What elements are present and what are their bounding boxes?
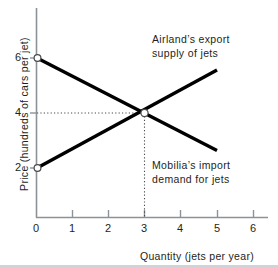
- demand-annotation-line-1: Mobilia’s import: [152, 159, 230, 173]
- demand-origin-marker: [34, 55, 41, 62]
- supply-curve-annotation: Airland’s export supply of jets: [152, 33, 230, 60]
- chart-figure: 0 1 2 3 4 5 6 6 4 2 Quantity (jets per y…: [0, 0, 278, 268]
- demand-annotation-line-2: demand for jets: [152, 173, 230, 187]
- supply-annotation-line-1: Airland’s export: [152, 33, 230, 47]
- equilibrium-point-marker: [141, 109, 148, 116]
- demand-curve: [37, 58, 217, 151]
- x-tick-label-5: 5: [208, 222, 226, 234]
- supply-origin-marker: [34, 165, 41, 172]
- supply-annotation-line-2: supply of jets: [152, 47, 230, 61]
- x-tick-label-2: 2: [99, 222, 117, 234]
- supply-curve: [37, 70, 217, 168]
- x-tick-label-1: 1: [63, 222, 81, 234]
- y-axis-ticks: [30, 58, 37, 168]
- x-tick-label-3: 3: [135, 222, 153, 234]
- x-tick-label-4: 4: [171, 222, 189, 234]
- x-axis-ticks: [73, 210, 254, 218]
- x-tick-label-6: 6: [244, 222, 262, 234]
- demand-curve-annotation: Mobilia’s import demand for jets: [152, 159, 230, 186]
- x-tick-label-0: 0: [27, 222, 45, 234]
- x-axis-title: Quantity (jets per year): [140, 250, 254, 262]
- y-axis-title: Price (hundreds of cars per jet): [18, 34, 30, 194]
